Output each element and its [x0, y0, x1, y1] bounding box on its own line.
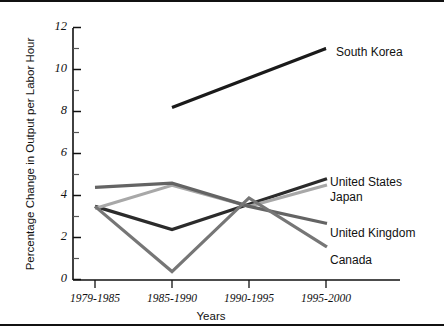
x-tick-label: 1985-1990 — [147, 292, 197, 304]
series-line-canada — [95, 198, 327, 272]
x-tick-label: 1979-1985 — [70, 292, 120, 304]
series-label-canada: Canada — [330, 253, 372, 267]
series-label-south-korea: South Korea — [336, 45, 403, 59]
y-axis-title: Percentage Change in Output per Labor Ho… — [24, 37, 36, 270]
y-tick-label: 12 — [55, 19, 68, 33]
series-line-south-korea — [172, 49, 326, 108]
series-label-japan: Japan — [330, 190, 363, 204]
series-label-united-kingdom: United Kingdom — [330, 226, 415, 240]
chart-page: 0 2 4 6 8 10 12 — [0, 0, 444, 326]
y-tick-group-10: 10 — [55, 61, 82, 75]
x-tick-label: 1995-2000 — [301, 292, 351, 304]
line-chart: 0 2 4 6 8 10 12 — [0, 2, 444, 326]
y-tick-label: 6 — [61, 145, 68, 159]
y-tick-group-12: 12 — [55, 19, 82, 33]
y-tick-group-0: 0 — [61, 271, 81, 285]
y-tick-label: 8 — [61, 103, 68, 117]
x-axis-title: Years — [197, 310, 226, 322]
y-tick-group-2: 2 — [61, 229, 81, 243]
series-label-united-states: United States — [330, 175, 402, 189]
y-tick-group-6: 6 — [61, 145, 81, 159]
x-tick-label: 1990-1995 — [224, 292, 274, 304]
y-tick-label: 10 — [55, 61, 68, 75]
y-tick-label: 2 — [61, 229, 67, 243]
y-tick-label: 0 — [61, 271, 68, 285]
y-tick-group-8: 8 — [61, 103, 81, 117]
y-tick-group-4: 4 — [61, 187, 81, 201]
y-tick-label: 4 — [61, 187, 67, 201]
